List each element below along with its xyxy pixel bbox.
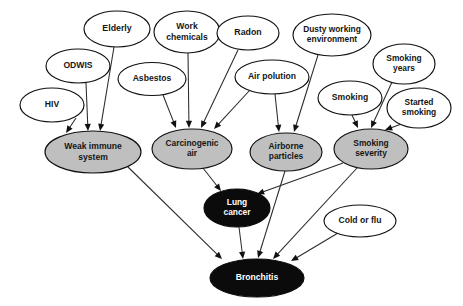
edge-line bbox=[188, 53, 189, 122]
node-shape[interactable] bbox=[217, 16, 279, 50]
arrowhead bbox=[275, 125, 281, 132]
node-coldflu[interactable]: Cold or flu bbox=[324, 205, 396, 237]
arrowhead bbox=[85, 124, 91, 131]
edge-workchem-to-carcair bbox=[186, 53, 192, 128]
node-shape[interactable] bbox=[373, 44, 435, 84]
node-dusty[interactable]: Dusty workingenvironment bbox=[293, 14, 371, 56]
edge-asbestos-to-carcair bbox=[163, 95, 176, 128]
node-asbestos[interactable]: Asbestos bbox=[118, 63, 186, 96]
arrowhead bbox=[257, 250, 263, 258]
node-shape[interactable] bbox=[334, 129, 408, 169]
edge-lung-to-bronch bbox=[239, 227, 245, 259]
node-shape[interactable] bbox=[46, 49, 110, 83]
edge-line bbox=[203, 168, 217, 186]
node-shape[interactable] bbox=[324, 205, 396, 237]
node-shape[interactable] bbox=[293, 14, 371, 56]
arrowhead bbox=[98, 123, 104, 131]
node-shape[interactable] bbox=[154, 11, 220, 53]
arrowhead bbox=[239, 251, 245, 259]
edge-coldflu-to-bronch bbox=[291, 233, 338, 261]
node-hiv[interactable]: HIV bbox=[20, 88, 84, 122]
edge-radon-to-carcair bbox=[201, 50, 238, 128]
arrowhead bbox=[186, 121, 192, 128]
arrowhead bbox=[214, 183, 221, 191]
edge-carcair-to-lung bbox=[203, 168, 221, 191]
node-shape[interactable] bbox=[387, 88, 451, 128]
node-airborne[interactable]: Airborneparticles bbox=[250, 133, 322, 171]
edge-line bbox=[86, 83, 88, 125]
node-shape[interactable] bbox=[204, 189, 270, 227]
node-shape[interactable] bbox=[84, 11, 150, 47]
node-shape[interactable] bbox=[235, 60, 309, 94]
node-weak[interactable]: Weak immunesystem bbox=[45, 131, 141, 173]
causal-diagram-canvas: HIVODWISElderlyAsbestosWorkchemicalsRado… bbox=[0, 0, 463, 306]
graph-svg: HIVODWISElderlyAsbestosWorkchemicalsRado… bbox=[0, 0, 463, 306]
node-shape[interactable] bbox=[318, 81, 382, 115]
arrowhead bbox=[170, 120, 176, 128]
node-shape[interactable] bbox=[210, 259, 304, 297]
node-shape[interactable] bbox=[118, 63, 186, 96]
node-airpol[interactable]: Air polution bbox=[235, 60, 309, 94]
edge-line bbox=[218, 90, 250, 125]
arrowhead bbox=[291, 255, 299, 261]
edge-odwis-to-weak bbox=[85, 83, 91, 131]
node-smoksev[interactable]: Smokingseverity bbox=[334, 129, 408, 169]
node-odwis[interactable]: ODWIS bbox=[46, 49, 110, 83]
arrowhead bbox=[385, 125, 393, 131]
edge-line bbox=[239, 227, 242, 253]
edge-line bbox=[352, 115, 355, 123]
edge-line bbox=[296, 233, 338, 258]
node-lung[interactable]: Lungcancer bbox=[204, 189, 270, 227]
edge-airpol-to-carcair bbox=[214, 90, 250, 129]
node-layer: HIVODWISElderlyAsbestosWorkchemicalsRado… bbox=[20, 11, 451, 297]
node-shape[interactable] bbox=[250, 133, 322, 171]
node-radon[interactable]: Radon bbox=[217, 16, 279, 50]
arrowhead bbox=[66, 125, 73, 133]
node-shape[interactable] bbox=[20, 88, 84, 122]
node-carcair[interactable]: Carcinogenicair bbox=[152, 129, 232, 169]
node-smokyears[interactable]: Smokingyears bbox=[373, 44, 435, 84]
arrowhead bbox=[293, 124, 299, 132]
node-elderly[interactable]: Elderly bbox=[84, 11, 150, 47]
node-bronch[interactable]: Bronchitis bbox=[210, 259, 304, 297]
edge-line bbox=[275, 94, 278, 126]
edge-airpol-to-airborne bbox=[275, 94, 281, 132]
node-started[interactable]: Startedsmoking bbox=[387, 88, 451, 128]
node-smoking[interactable]: Smoking bbox=[318, 81, 382, 115]
edge-smoking-to-smoksev bbox=[352, 115, 358, 128]
edge-line bbox=[204, 50, 238, 123]
node-shape[interactable] bbox=[45, 131, 141, 173]
edge-line bbox=[163, 95, 174, 122]
node-workchem[interactable]: Workchemicals bbox=[154, 11, 220, 53]
node-shape[interactable] bbox=[152, 129, 232, 169]
